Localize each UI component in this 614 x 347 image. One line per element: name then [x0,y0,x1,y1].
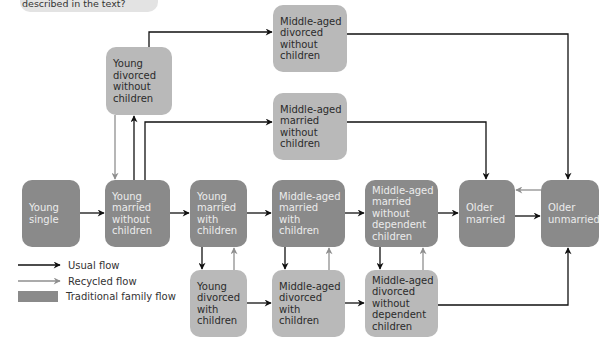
legend-usual-label: Usual flow [68,260,120,271]
node-label: Young married without children [112,191,152,237]
node-label: Older married [466,202,505,225]
node-label: Young divorced with children [197,281,240,327]
node-ma-divorced-no-dependent: Middle-aged divorced without dependent c… [365,270,438,337]
node-ma-married-children: Middle-aged married with children [272,180,345,247]
node-young-divorced-no-children: Young divorced without children [106,47,172,115]
node-label: Young divorced without children [113,58,156,104]
node-label: Middle-aged divorced with children [279,281,341,327]
node-older-unmarried: Older unmarried [541,180,599,247]
node-older-married: Older married [459,180,515,247]
arrow-ydnc-to-madnc [149,32,272,47]
node-label: Middle-aged married without children [280,104,342,150]
node-ma-married-no-dependent: Middle-aged married without dependent ch… [365,180,438,247]
node-young-married-no-children: Young married without children [105,180,170,247]
node-label: Middle-aged married without dependent ch… [372,185,434,243]
node-young-married-children: Young married with children [190,180,247,247]
node-label: Middle-aged married with children [279,191,341,237]
node-ma-married-no-children: Middle-aged married without children [273,93,347,160]
node-label: Middle-aged divorced without dependent c… [372,275,434,333]
node-young-divorced-children: Young divorced with children [190,270,247,337]
node-label: Older unmarried [548,202,600,225]
node-ma-divorced-no-children: Middle-aged divorced without children [273,5,347,72]
legend-traditional-label: Traditional family flow [66,291,176,302]
arrow-mamnc-to-om [347,122,486,179]
arrow-ymnc-to-mamnc [145,122,272,180]
arrow-madnd-to-ou [438,248,568,305]
node-label: Middle-aged divorced without children [280,16,342,62]
node-label: Young single [29,202,59,225]
legend-traditional: Traditional family flow [18,289,176,303]
node-ma-divorced-children: Middle-aged divorced with children [272,270,345,337]
arrow-madnc-to-ou [347,34,568,179]
legend-usual: Usual flow [68,258,120,272]
legend-recycled-label: Recycled flow [68,276,137,287]
legend-traditional-swatch [18,291,58,302]
legend-recycled: Recycled flow [68,274,137,288]
node-label: Young married with children [197,191,237,237]
node-young-single: Young single [22,180,80,247]
